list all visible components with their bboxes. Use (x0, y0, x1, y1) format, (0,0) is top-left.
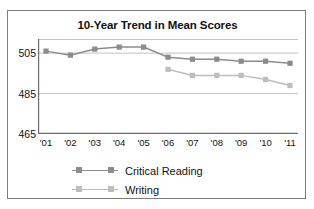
data-point-marker (165, 67, 170, 72)
data-point-marker (239, 59, 244, 64)
x-tick-label: '02 (64, 137, 76, 148)
y-tick-label: 485 (18, 88, 36, 100)
y-axis-labels: 465485505 (8, 39, 36, 134)
x-tick-label: '11 (284, 137, 296, 148)
data-point-marker (43, 49, 48, 54)
data-point-marker (287, 61, 292, 66)
data-point-marker (263, 77, 268, 82)
legend-marker (108, 186, 114, 192)
x-tick-label: '03 (89, 137, 101, 148)
x-tick-label: '04 (113, 137, 125, 148)
data-point-marker (190, 57, 195, 62)
data-point-marker (68, 53, 73, 58)
y-tick-label: 465 (18, 128, 36, 140)
x-tick-label: '05 (137, 137, 149, 148)
data-point-marker (117, 44, 122, 49)
legend-swatch (72, 185, 118, 195)
x-tick-label: '06 (162, 137, 174, 148)
chart-figure: 10-Year Trend in Mean Scores 465485505 '… (7, 10, 306, 199)
x-tick-label: '01 (40, 137, 52, 148)
x-tick-label: '10 (259, 137, 271, 148)
chart-legend: Critical ReadingWriting (8, 161, 307, 199)
legend-swatch (72, 166, 118, 176)
y-tick-label: 505 (18, 47, 36, 59)
data-point-marker (141, 44, 146, 49)
legend-marker (108, 167, 114, 173)
data-point-marker (190, 73, 195, 78)
data-point-marker (92, 47, 97, 52)
data-point-marker (263, 59, 268, 64)
data-point-marker (287, 83, 292, 88)
legend-marker (76, 167, 82, 173)
legend-item[interactable]: Critical Reading (8, 161, 307, 180)
chart-svg (38, 39, 298, 134)
legend-marker (76, 186, 82, 192)
data-point-marker (214, 73, 219, 78)
plot-area (38, 39, 298, 134)
x-axis-labels: '01'02'03'04'05'06'07'08'09'10'11 (38, 137, 298, 151)
data-point-marker (165, 55, 170, 60)
data-point-marker (239, 73, 244, 78)
x-tick-label: '07 (186, 137, 198, 148)
x-tick-label: '09 (235, 137, 247, 148)
legend-label: Critical Reading (125, 165, 243, 177)
chart-title: 10-Year Trend in Mean Scores (8, 19, 307, 31)
series-line (168, 69, 290, 85)
legend-item[interactable]: Writing (8, 180, 307, 199)
data-point-marker (214, 57, 219, 62)
x-tick-label: '08 (211, 137, 223, 148)
legend-label: Writing (125, 184, 243, 196)
